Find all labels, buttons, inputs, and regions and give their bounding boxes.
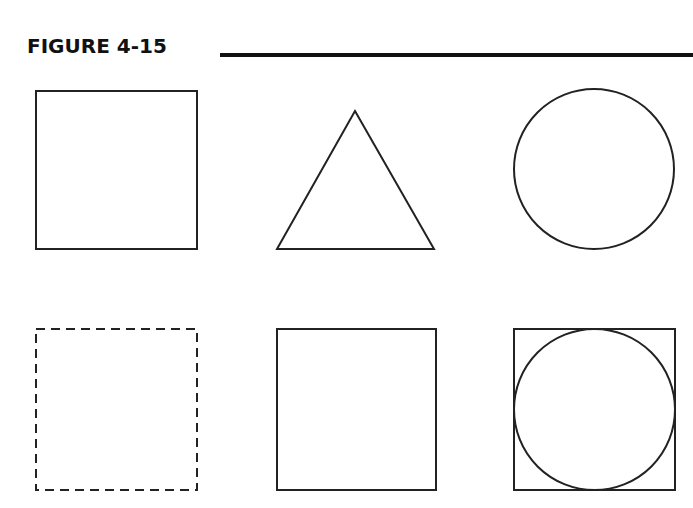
- figure-canvas: [0, 0, 693, 508]
- dashed-square-shape: [36, 329, 197, 490]
- square-with-inscribed-circle-shape: [514, 329, 675, 490]
- square-solid-2-shape: [277, 329, 436, 490]
- circle-shape: [514, 89, 674, 249]
- triangle-shape: [277, 111, 434, 249]
- square-solid-shape: [36, 91, 197, 249]
